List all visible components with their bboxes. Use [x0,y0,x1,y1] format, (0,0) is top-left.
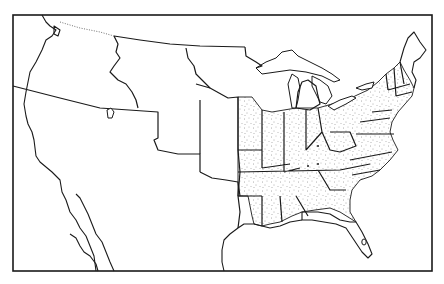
reservoir-dot [317,145,319,147]
reservoir-dot [307,165,309,167]
reservoir-dot [317,163,319,165]
lake-okeechobee [362,239,366,245]
historical-us-map [0,0,444,284]
